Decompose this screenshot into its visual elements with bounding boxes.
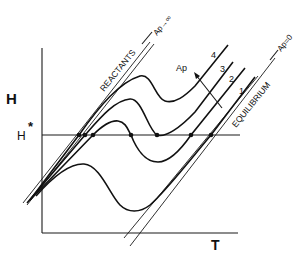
curve-label-1: 1 xyxy=(239,86,244,96)
equilibrium-limit-group: Ap=0 xyxy=(276,32,295,53)
enthalpy-temperature-diagram: H T H * REACTANTS Ap→∞ EQUILIBRIUM Ap=0 … xyxy=(0,0,299,254)
ap-arrow-label: Ap xyxy=(176,63,187,73)
h-star-label: H xyxy=(17,129,26,143)
equilibrium-leader-line xyxy=(270,50,278,60)
equilibrium-limit-label: Ap=0 xyxy=(276,32,295,53)
reactants-leader-line xyxy=(142,32,152,44)
reactants-limit-group: Ap→∞ xyxy=(152,13,174,37)
y-axis-label: H xyxy=(6,90,17,107)
x-axis-label: T xyxy=(211,237,220,253)
equilibrium-label-group: EQUILIBRIUM xyxy=(230,80,273,129)
equilibrium-asymptote xyxy=(124,58,275,246)
reactants-limit-label: Ap→∞ xyxy=(152,13,174,37)
curve-label-3: 3 xyxy=(220,64,225,74)
reactants-label: REACTANTS xyxy=(98,47,138,93)
increasing-ap-arrow xyxy=(196,75,222,108)
reactants-asymptote xyxy=(23,42,154,205)
equilibrium-label: EQUILIBRIUM xyxy=(230,80,273,129)
curve-label-4: 4 xyxy=(211,50,216,60)
h-star-superscript: * xyxy=(28,119,34,134)
curve-label-2: 2 xyxy=(229,74,234,84)
reactants-label-group: REACTANTS xyxy=(98,47,138,93)
arrow-head-icon xyxy=(194,72,200,79)
